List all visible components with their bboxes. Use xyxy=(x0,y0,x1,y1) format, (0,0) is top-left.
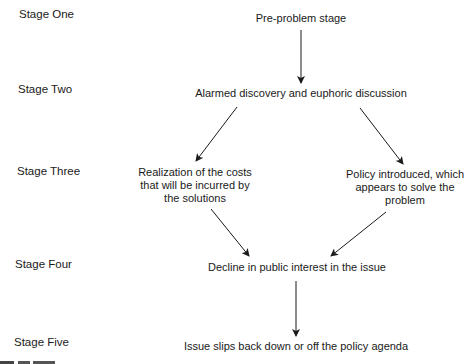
arrow-realization-to-decline xyxy=(211,209,249,256)
arrow-alarmed-to-realization xyxy=(196,107,237,161)
arrow-alarmed-to-policy xyxy=(360,108,403,164)
arrows-layer xyxy=(0,0,475,364)
figure-caption-clipped xyxy=(0,360,60,364)
arrow-policy-to-decline xyxy=(331,212,386,256)
